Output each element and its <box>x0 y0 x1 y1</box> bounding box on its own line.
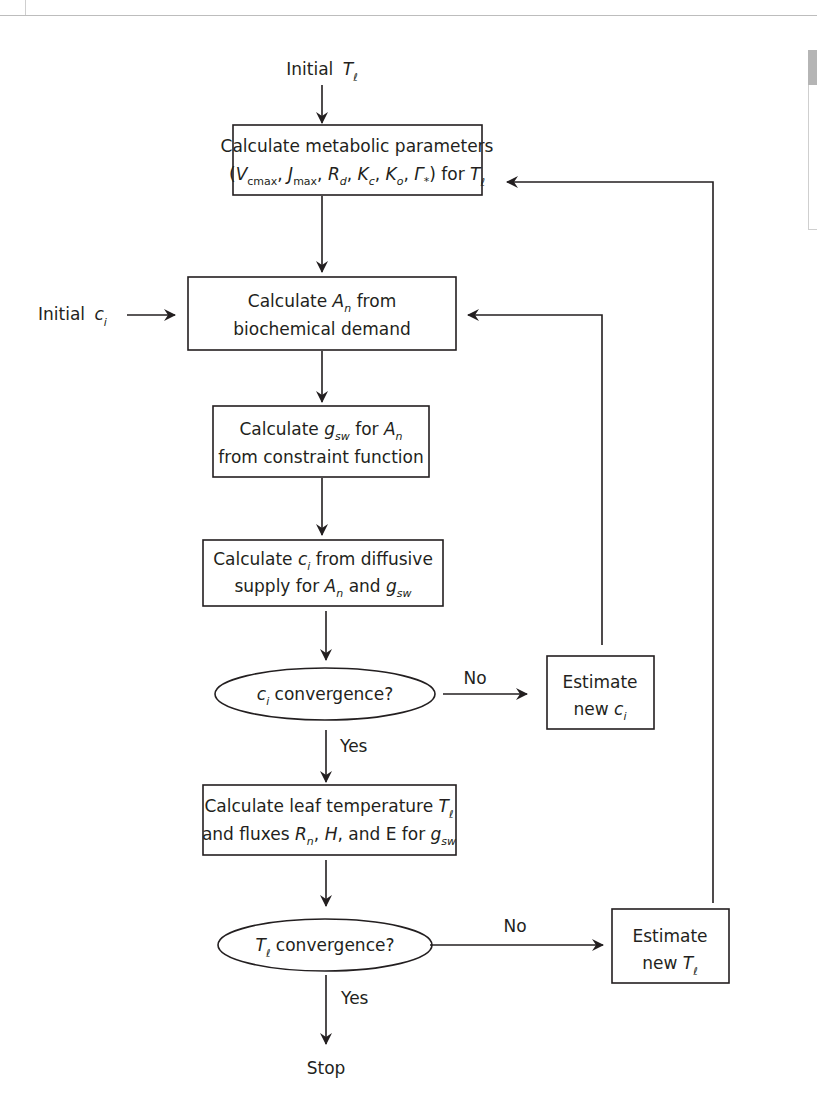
initial-ci-label: Initial ci <box>38 304 107 329</box>
label-tl-no: No <box>503 916 526 936</box>
svg-text:Tℓ convergence?: Tℓ convergence? <box>256 935 395 960</box>
svg-text:and fluxes Rn, H, and E for gs: and fluxes Rn, H, and E for gsw <box>202 824 456 848</box>
step-metabolic-box: Calculate metabolic parameters (Vcmax, J… <box>221 125 494 195</box>
svg-text:biochemical demand: biochemical demand <box>233 319 410 339</box>
svg-text:new Tℓ: new Tℓ <box>642 953 697 978</box>
stop-label: Stop <box>307 1058 346 1078</box>
step-ci-box: Calculate ci from diffusive supply for A… <box>203 540 443 606</box>
step-gsw-box: Calculate gsw for An from constraint fun… <box>213 406 429 477</box>
label-ci-no: No <box>463 668 486 688</box>
svg-text:Calculate metabolic parameters: Calculate metabolic parameters <box>221 136 494 156</box>
flowchart: Initial Tℓ Calculate metabolic parameter… <box>0 0 817 1101</box>
svg-text:from constraint function: from constraint function <box>218 447 423 467</box>
svg-text:Initial ci: Initial ci <box>38 304 107 329</box>
loop-estimate-tl-box: Estimate new Tℓ <box>612 909 729 983</box>
decision-tl-convergence: Tℓ convergence? <box>218 919 432 971</box>
step-An-box: Calculate An from biochemical demand <box>188 277 456 350</box>
svg-text:Calculate gsw for An: Calculate gsw for An <box>239 419 402 443</box>
svg-text:Calculate An from: Calculate An from <box>248 291 396 315</box>
svg-text:Estimate: Estimate <box>562 672 637 692</box>
svg-text:new ci: new ci <box>574 699 627 723</box>
svg-text:Initial Tℓ: Initial Tℓ <box>286 59 357 84</box>
svg-text:ci convergence?: ci convergence? <box>257 684 393 708</box>
step-leaf-temperature-box: Calculate leaf temperature Tℓ and fluxes… <box>202 785 456 855</box>
svg-text:Calculate leaf temperature Tℓ: Calculate leaf temperature Tℓ <box>205 796 454 821</box>
arrow-estimate-tl-to-metabolic <box>507 182 713 903</box>
start-label: Initial Tℓ <box>286 59 357 84</box>
decision-ci-convergence: ci convergence? <box>215 668 435 720</box>
svg-text:Estimate: Estimate <box>632 926 707 946</box>
svg-text:Calculate ci from diffusive: Calculate ci from diffusive <box>213 549 433 573</box>
label-ci-yes: Yes <box>339 736 368 756</box>
svg-text:supply for An and gsw: supply for An and gsw <box>234 576 411 600</box>
label-tl-yes: Yes <box>340 988 369 1008</box>
loop-estimate-ci-box: Estimate new ci <box>547 656 654 729</box>
svg-text:(Vcmax, Jmax, Rd: (Vcmax, Jmax, Rd, Kc, Ko, Γ*) for Tℓ <box>229 164 485 189</box>
arrow-estimate-ci-to-An <box>468 315 602 645</box>
